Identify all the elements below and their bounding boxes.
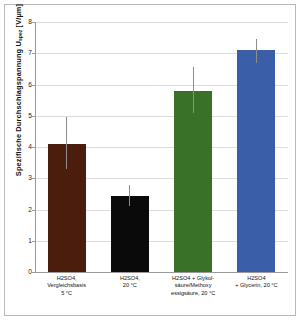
bar	[237, 50, 275, 272]
category-label-line: säure/Methoxy	[162, 282, 225, 289]
y-axis-tick-label: 1	[22, 237, 32, 244]
plot-area: 012345678	[35, 22, 288, 272]
y-axis-tick-label: 8	[22, 18, 32, 25]
chart-frame: Spezifische Durchschlagspannung Uspez [V…	[4, 4, 296, 316]
x-axis-category-label: H2SO4,Vergleichsbasis5 °C	[35, 275, 98, 297]
gridline	[35, 272, 288, 273]
y-axis-tick-label: 0	[22, 268, 32, 275]
y-axis-tick-label: 5	[22, 112, 32, 119]
y-axis-tick-label: 7	[22, 49, 32, 56]
category-label-line: essigsäure, 20 °C	[162, 290, 225, 297]
x-axis-category-label: H2SO4 + Glykol-säure/Methoxyessigsäure, …	[162, 275, 225, 297]
y-axis-title-text: Spezifische Durchschlagspannung U	[14, 41, 23, 176]
category-label-line: 5 °C	[35, 290, 98, 297]
error-bar	[193, 67, 194, 112]
y-axis-tick-label: 4	[22, 143, 32, 150]
bar	[174, 91, 212, 272]
category-label-line: Vergleichsbasis	[35, 282, 98, 289]
category-label-line: + Glycerin, 20 °C	[225, 282, 288, 289]
error-bar	[256, 39, 257, 62]
x-axis-category-label: H2SO4,20 °C	[98, 275, 161, 290]
gridline	[35, 22, 288, 23]
y-axis-title: Spezifische Durchschlagspannung Uspez [V…	[14, 0, 28, 190]
y-axis-tick-label: 2	[22, 206, 32, 213]
error-bar	[129, 185, 130, 207]
y-axis-tick-label: 6	[22, 81, 32, 88]
y-axis-tick-label: 3	[22, 174, 32, 181]
error-bar	[66, 117, 67, 169]
category-label-line: 20 °C	[98, 282, 161, 289]
y-axis-title-subscript: spez	[17, 30, 23, 41]
category-label-line: H2SO4,	[35, 275, 98, 282]
category-label-line: H2SO4,	[98, 275, 161, 282]
category-label-line: H2SO4 + Glykol-	[162, 275, 225, 282]
y-axis-line	[35, 22, 36, 272]
y-axis-title-unit: [V/µm]	[14, 4, 23, 30]
x-axis-category-label: H2SO4+ Glycerin, 20 °C	[225, 275, 288, 290]
y-axis-tickmark	[32, 272, 35, 273]
category-label-line: H2SO4	[225, 275, 288, 282]
x-axis-category-labels: H2SO4,Vergleichsbasis5 °CH2SO4,20 °CH2SO…	[35, 275, 288, 315]
bar	[111, 196, 149, 272]
